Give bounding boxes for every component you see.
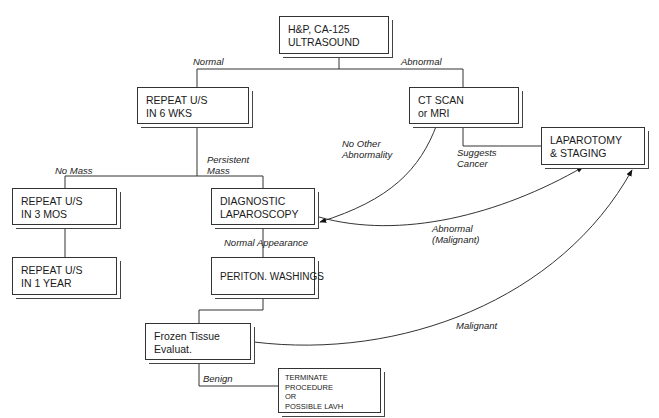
label-text: Cancer bbox=[457, 158, 497, 169]
node-repeat-us-3-mos: REPEAT U/S IN 3 MOS bbox=[12, 188, 117, 225]
label-benign: Benign bbox=[203, 373, 233, 384]
node-hp-ca125-ultrasound: H&P, CA-125 ULTRASOUND bbox=[279, 16, 389, 54]
node-text: H&P, CA-125 bbox=[288, 23, 380, 36]
node-text: or MRI bbox=[418, 107, 510, 120]
node-text: Evaluat. bbox=[154, 343, 242, 356]
node-text: OR bbox=[285, 392, 374, 402]
node-terminate-procedure: TERMINATE PROCEDURE OR POSSIBLE LAVH bbox=[278, 368, 381, 413]
node-text: PERITON. WASHINGS bbox=[220, 270, 306, 283]
node-periton-washings: PERITON. WASHINGS bbox=[211, 257, 315, 295]
label-suggests-cancer: Suggests Cancer bbox=[457, 147, 497, 169]
node-text: Frozen Tissue bbox=[154, 330, 242, 343]
label-normal: Normal bbox=[193, 56, 224, 67]
label-text: (Malignant) bbox=[432, 234, 480, 245]
node-text: IN 3 MOS bbox=[21, 208, 108, 221]
node-text: TERMINATE bbox=[285, 373, 374, 383]
node-text: POSSIBLE LAVH bbox=[285, 402, 374, 412]
label-no-other-abnormality: No Other Abnormality bbox=[342, 138, 392, 160]
label-abnormal-malignant: Abnormal (Malignant) bbox=[432, 223, 480, 245]
node-laparotomy-staging: LAPAROTOMY & STAGING bbox=[541, 127, 645, 165]
node-diagnostic-laparoscopy: DIAGNOSTIC LAPAROSCOPY bbox=[211, 188, 315, 225]
node-text: CT SCAN bbox=[418, 94, 510, 107]
node-repeat-us-1-year: REPEAT U/S IN 1 YEAR bbox=[12, 257, 117, 295]
node-text: LAPAROTOMY bbox=[550, 134, 636, 147]
label-normal-appearance: Normal Appearance bbox=[224, 237, 308, 248]
node-text: & STAGING bbox=[550, 147, 636, 160]
label-text: Normal bbox=[193, 56, 224, 67]
label-text: No Other bbox=[342, 138, 392, 149]
label-persistent-mass: Persistent Mass bbox=[207, 154, 249, 176]
label-text: Benign bbox=[203, 373, 233, 384]
node-ct-scan-or-mri: CT SCAN or MRI bbox=[409, 87, 519, 124]
node-frozen-tissue-evaluation: Frozen Tissue Evaluat. bbox=[145, 323, 251, 360]
node-repeat-us-6-wks: REPEAT U/S IN 6 WKS bbox=[137, 87, 249, 124]
node-text: IN 6 WKS bbox=[146, 107, 240, 120]
label-text: Abnormal bbox=[432, 223, 480, 234]
node-text: IN 1 YEAR bbox=[21, 277, 108, 290]
label-no-mass: No Mass bbox=[55, 165, 92, 176]
label-text: Mass bbox=[207, 165, 249, 176]
label-text: Persistent bbox=[207, 154, 249, 165]
label-text: No Mass bbox=[55, 165, 92, 176]
node-text: DIAGNOSTIC bbox=[220, 195, 306, 208]
label-malignant: Malignant bbox=[456, 320, 497, 331]
label-text: Abnormal bbox=[401, 56, 442, 67]
label-text: Suggests bbox=[457, 147, 497, 158]
node-text: PROCEDURE bbox=[285, 383, 374, 393]
node-text: REPEAT U/S bbox=[21, 264, 108, 277]
node-text: REPEAT U/S bbox=[21, 195, 108, 208]
node-text: ULTRASOUND bbox=[288, 36, 380, 49]
label-abnormal: Abnormal bbox=[401, 56, 442, 67]
node-text: LAPAROSCOPY bbox=[220, 208, 306, 221]
label-text: Normal Appearance bbox=[224, 237, 308, 248]
label-text: Abnormality bbox=[342, 149, 392, 160]
node-text: REPEAT U/S bbox=[146, 94, 240, 107]
label-text: Malignant bbox=[456, 320, 497, 331]
